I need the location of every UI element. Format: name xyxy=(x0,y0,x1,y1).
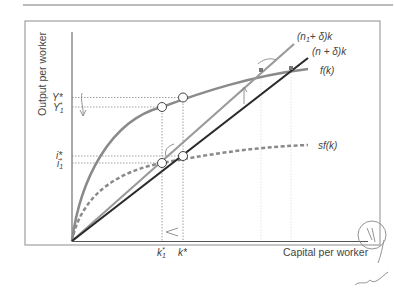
marker-Y-star xyxy=(179,93,188,102)
x-axis-label: Capital per worker xyxy=(283,246,369,258)
tick-Y1-star: Y1* xyxy=(53,101,64,114)
arrow-left-annotation xyxy=(166,228,178,236)
crossing-mark-2 xyxy=(289,66,293,70)
tick-i1-star: i1* xyxy=(57,157,63,170)
marker-i1-star xyxy=(158,159,167,168)
label-f: f(k) xyxy=(320,65,334,76)
tick-k-star: k* xyxy=(178,247,188,258)
f-curve xyxy=(72,69,308,241)
label-sf: sf(k) xyxy=(318,140,337,151)
solow-diagram: Output per worker Capital per worker Y* … xyxy=(0,0,394,297)
sf-curve xyxy=(72,145,308,241)
crossing-mark-1 xyxy=(259,68,263,72)
scribble-text xyxy=(355,272,388,285)
label-n-delta: (n + δ)k xyxy=(312,46,347,57)
n-delta-line xyxy=(72,58,308,241)
marker-i-star xyxy=(179,152,188,161)
tick-k1-star: k1* xyxy=(157,246,166,259)
label-n1-delta: (n1+ δ)k xyxy=(297,31,333,43)
y-axis-label: Output per worker xyxy=(36,31,48,116)
marker-Y1-star xyxy=(158,103,167,112)
arrow-down-annotation xyxy=(80,93,86,116)
